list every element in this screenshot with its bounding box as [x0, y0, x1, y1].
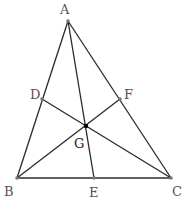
- point-c: [169, 176, 173, 180]
- label-e: E: [89, 185, 99, 200]
- label-g: G: [74, 136, 84, 151]
- triangle-diagram: A B C D E F G: [0, 0, 184, 212]
- point-f: [118, 97, 122, 101]
- label-b: B: [4, 184, 14, 199]
- label-c: C: [172, 184, 182, 199]
- point-d: [40, 97, 44, 101]
- point-b: [15, 176, 19, 180]
- point-g-centroid: [84, 124, 88, 128]
- point-a: [66, 19, 70, 23]
- median-ae: [68, 21, 94, 178]
- label-f: F: [124, 87, 133, 102]
- median-cd: [42, 99, 171, 178]
- label-a: A: [59, 2, 70, 17]
- median-bf: [17, 99, 120, 178]
- label-d: D: [30, 87, 40, 102]
- point-e: [92, 176, 96, 180]
